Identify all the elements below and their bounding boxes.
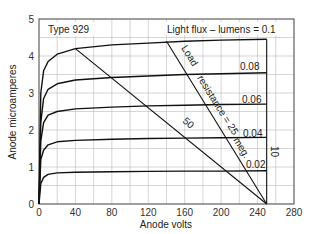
y-tick-label: 2 (28, 125, 34, 136)
y-tick-label: 5 (28, 14, 34, 25)
load-word-label: Load (179, 43, 200, 68)
x-tick-label: 200 (213, 207, 230, 218)
y-tick-label: 0 (28, 199, 34, 210)
flux-header-label: Light flux – lumens = 0.1 (167, 24, 276, 35)
x-tick-label: 240 (249, 207, 266, 218)
flux-label-006: 0.06 (242, 94, 262, 105)
y-tick-label: 3 (28, 88, 34, 99)
flux-label-004: 0.04 (243, 128, 263, 139)
y-tick-label: 1 (28, 162, 34, 173)
x-axis-label: Anode volts (140, 219, 192, 230)
y-axis-label: Anode microamperes (7, 64, 18, 159)
y-axis-ticks: 012345 (28, 14, 34, 210)
x-tick-label: 0 (36, 207, 42, 218)
chart-title: Type 929 (48, 24, 90, 35)
x-tick-label: 280 (286, 207, 303, 218)
grid (39, 19, 294, 204)
x-tick-label: 80 (106, 207, 118, 218)
anode-characteristics-chart: 04080120160200240280 012345 Type 929 Lig… (0, 0, 315, 234)
x-axis-ticks: 04080120160200240280 (36, 207, 303, 218)
flux-label-002: 0.02 (246, 159, 266, 170)
x-tick-label: 160 (176, 207, 193, 218)
flux-label-008: 0.08 (240, 61, 260, 72)
load-50-label: 50 (181, 115, 197, 131)
x-tick-label: 40 (70, 207, 82, 218)
y-tick-label: 4 (28, 51, 34, 62)
load-10-label: 10 (269, 146, 280, 158)
x-tick-label: 120 (140, 207, 157, 218)
load-lines (75, 39, 266, 204)
